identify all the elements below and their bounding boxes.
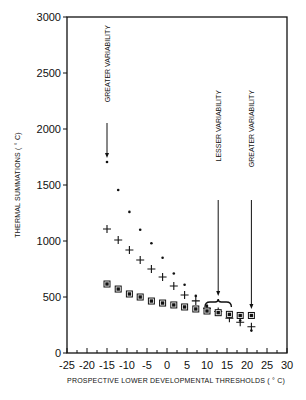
plus-marker	[103, 225, 111, 233]
x-tick-label: -25	[59, 359, 75, 371]
x-axis: -25-20-15-10-5051015202530	[59, 348, 293, 371]
square-marker-core	[139, 295, 142, 298]
plus-marker	[170, 282, 178, 290]
y-tick-label: 1500	[37, 179, 61, 191]
square-marker-core	[105, 282, 108, 285]
dot-marker	[150, 242, 153, 245]
plus-marker	[181, 291, 189, 299]
plus-marker	[192, 297, 200, 305]
arrowhead-icon	[105, 153, 109, 158]
square-marker-core	[172, 303, 175, 306]
square-marker-core	[117, 287, 120, 290]
square-marker-core	[239, 314, 242, 317]
dot-marker	[195, 295, 198, 298]
square-marker-core	[161, 301, 164, 304]
y-tick-label: 3000	[37, 11, 61, 23]
dot-marker	[106, 161, 109, 164]
plus-marker	[125, 246, 133, 254]
x-tick-label: 25	[261, 359, 273, 371]
plus-marker	[159, 273, 167, 281]
arrowhead-icon	[216, 291, 220, 296]
plus-marker	[147, 265, 155, 273]
x-tick-label: 5	[184, 359, 190, 371]
y-tick-label: 1000	[37, 235, 61, 247]
plus-marker	[114, 236, 122, 244]
square-marker-core	[250, 314, 253, 317]
greater-variability-left-label: GREATER VARIABILITY	[104, 25, 111, 102]
y-axis-title: THERMAL SUMMATIONS ( ° C)	[14, 132, 22, 237]
annotations: GREATER VARIABILITYLESSER VARIABILITYGRE…	[104, 25, 255, 309]
plus-marker	[136, 256, 144, 264]
dot-marker	[183, 283, 186, 286]
lesser-variability-label: LESSER VARIABILITY	[215, 90, 222, 162]
bracket-icon	[205, 299, 231, 307]
square-marker-core	[150, 299, 153, 302]
square-marker-core	[194, 307, 197, 310]
y-tick-label: 0	[55, 347, 61, 359]
dot-marker	[128, 211, 131, 214]
y-tick-label: 2000	[37, 123, 61, 135]
x-axis-title: PROSPECTIVE LOWER DEVELOPMENTAL THRESHOL…	[67, 377, 285, 385]
square-marker-core	[217, 311, 220, 314]
square-marker-core	[128, 292, 131, 295]
scatter-chart: 050010001500200025003000 -25-20-15-10-50…	[0, 0, 306, 400]
dot-marker	[161, 257, 164, 260]
x-tick-label: 10	[201, 359, 213, 371]
dot-marker	[139, 229, 142, 232]
x-tick-label: 20	[241, 359, 253, 371]
x-tick-label: -5	[142, 359, 152, 371]
x-tick-label: 15	[221, 359, 233, 371]
data-points	[103, 161, 255, 332]
square-marker-core	[228, 313, 231, 316]
arrowhead-icon	[249, 304, 253, 309]
x-tick-label: 30	[281, 359, 293, 371]
square-marker-core	[183, 305, 186, 308]
square-marker-core	[205, 309, 208, 312]
x-tick-label: 0	[164, 359, 170, 371]
y-tick-label: 2500	[37, 67, 61, 79]
greater-variability-right-label: GREATER VARIABILITY	[248, 90, 255, 167]
y-tick-label: 500	[43, 291, 61, 303]
plus-marker	[236, 318, 244, 326]
y-axis: 050010001500200025003000	[37, 11, 67, 359]
dot-marker	[117, 189, 120, 192]
dot-marker	[173, 272, 176, 275]
plus-marker	[247, 323, 255, 331]
x-tick-label: -10	[119, 359, 135, 371]
x-tick-label: -20	[79, 359, 95, 371]
x-tick-label: -15	[99, 359, 115, 371]
